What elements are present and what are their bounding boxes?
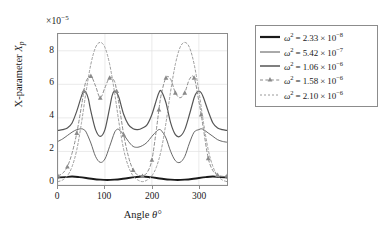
x-axis-label-text: Angle	[124, 209, 152, 220]
plot-canvas	[58, 34, 227, 185]
legend-label: ω2 = 2.10 × 10−6	[284, 89, 343, 101]
x-tick-mark	[104, 186, 105, 189]
legend-item[interactable]: ω2 = 5.42 × 10−7	[259, 44, 373, 58]
x-tick-mark	[152, 186, 153, 189]
legend-item[interactable]: ω2 = 2.10 × 10−6	[259, 88, 373, 102]
series-lines	[58, 42, 227, 181]
y-tick-label: 0	[36, 177, 54, 187]
legend-swatch-solid-thick	[259, 31, 281, 43]
x-axis-label-symbol: θ°	[152, 209, 161, 220]
legend-swatch-dashed-triangle	[259, 74, 281, 86]
plot-area	[57, 33, 228, 186]
x-axis-label: Angle θ°	[57, 209, 228, 220]
legend-swatch-dashed-fine	[259, 89, 281, 101]
legend-label: ω2 = 1.58 × 10−6	[284, 74, 343, 86]
x-tick-label: 0	[42, 192, 72, 202]
legend-swatch-solid-med	[259, 60, 281, 72]
x-tick-mark	[57, 186, 58, 189]
legend-item[interactable]: ω2 = 1.58 × 10−6	[259, 73, 373, 87]
legend-label: ω2 = 5.42 × 10−7	[284, 46, 343, 58]
y-tick-label: 6	[36, 78, 54, 88]
legend-swatch-solid-thin	[259, 46, 281, 58]
x-tick-label: 100	[89, 192, 119, 202]
y-tick-label: 8	[36, 46, 54, 56]
y-tick-label: 4	[36, 111, 54, 121]
figure: X-parameter Xp ×10−5 8 6 4 2 0 0 100 200…	[0, 0, 384, 241]
legend-item[interactable]: ω2 = 2.33 × 10−8	[259, 30, 373, 44]
legend-label: ω2 = 2.33 × 10−8	[284, 31, 343, 43]
x-tick-label: 300	[184, 192, 214, 202]
legend-item[interactable]: ω2 = 1.06 × 10−6	[259, 59, 373, 73]
y-tick-label: 2	[36, 144, 54, 154]
x-tick-mark	[199, 186, 200, 189]
legend: ω2 = 2.33 × 10−8 ω2 = 5.42 × 10−7 ω2 = 1…	[255, 25, 378, 107]
x-tick-label: 200	[137, 192, 167, 202]
legend-label: ω2 = 1.06 × 10−6	[284, 60, 343, 72]
